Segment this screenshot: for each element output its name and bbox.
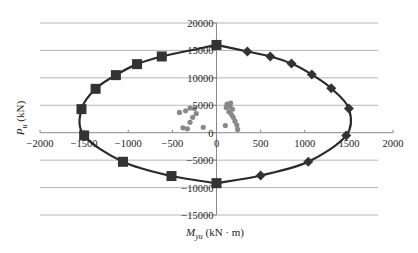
circle-marker — [223, 123, 228, 128]
x-tick-label: 1500 — [338, 138, 359, 149]
x-axis-label: Myu (kN · m) — [185, 226, 244, 241]
y-axis-label: Pu (kN) — [14, 101, 29, 137]
x-axis — [40, 130, 393, 133]
series-markers — [76, 40, 353, 188]
x-tick-label: −1000 — [115, 138, 142, 149]
x-tick-label: 2000 — [383, 138, 404, 149]
square-marker — [76, 104, 86, 114]
square-marker — [111, 70, 121, 80]
diamond-marker — [287, 59, 297, 69]
y-tick-label: −10000 — [181, 183, 213, 194]
y-tick-label: 15000 — [187, 45, 213, 56]
circle-marker — [183, 108, 188, 113]
circle-marker — [177, 110, 182, 115]
circle-marker — [180, 125, 185, 130]
circle-marker — [194, 111, 199, 116]
circle-marker — [235, 127, 240, 132]
diamond-marker — [256, 171, 266, 181]
x-tick-label: −500 — [162, 138, 184, 149]
circle-marker — [224, 105, 229, 110]
square-marker — [91, 84, 101, 94]
x-tick-label: −1500 — [71, 138, 98, 149]
y-tick-label: −15000 — [181, 210, 213, 221]
circle-marker — [185, 126, 190, 131]
x-tick-label: 0 — [214, 138, 219, 149]
diamond-marker — [265, 51, 275, 61]
circle-marker — [234, 122, 239, 127]
interaction-curve-right-line — [217, 45, 352, 183]
circle-marker — [228, 100, 233, 105]
circle-marker — [187, 120, 192, 125]
y-tick-label: −5000 — [187, 155, 214, 166]
square-marker — [157, 51, 167, 61]
x-tick-label: 500 — [253, 138, 269, 149]
y-tick-label: 5000 — [193, 100, 214, 111]
square-marker — [166, 171, 176, 181]
y-tick-label: 10000 — [187, 73, 213, 84]
circle-marker — [201, 125, 206, 130]
interaction-diagram: −2000−1500−1000−5000500100015002000−1500… — [0, 0, 418, 253]
circle-marker — [190, 115, 195, 120]
y-tick-label: 20000 — [187, 18, 213, 29]
y-tick-label: 0 — [208, 128, 213, 139]
square-marker — [132, 59, 142, 69]
x-tick-label: 1000 — [294, 138, 315, 149]
square-marker — [118, 157, 128, 167]
x-tick-label: −2000 — [27, 138, 54, 149]
diamond-marker — [303, 157, 313, 167]
diamond-marker — [242, 47, 252, 57]
